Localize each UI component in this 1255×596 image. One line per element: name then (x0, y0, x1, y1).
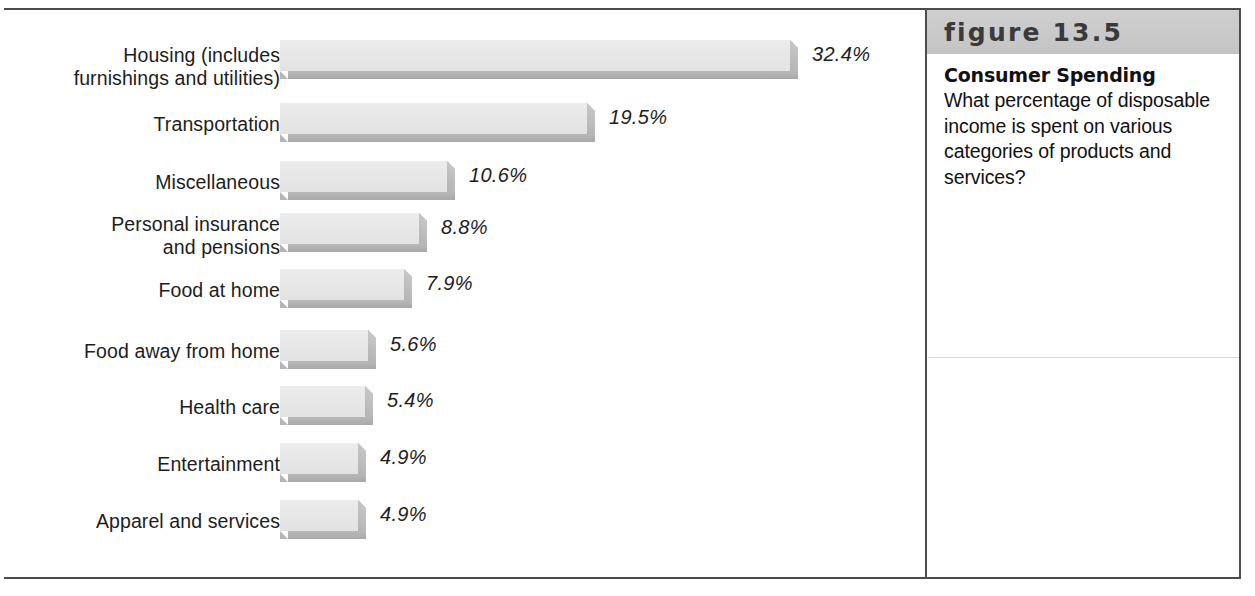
bar (280, 269, 404, 309)
bar-value-label: 7.9% (426, 272, 473, 295)
bar-bottom-face (288, 361, 376, 369)
bar-value-label: 4.9% (380, 503, 427, 526)
bar (280, 40, 790, 80)
bar-row: Entertainment4.9% (4, 443, 925, 489)
bar-row: Personal insurance and pensions8.8% (4, 213, 925, 259)
bar-row: Miscellaneous10.6% (4, 161, 925, 207)
bar-category-label: Food at home (0, 279, 280, 302)
bar-bottom-face (288, 417, 373, 425)
bar-face (280, 443, 358, 474)
bar-category-label: Health care (0, 396, 280, 419)
bar-value-label: 10.6% (469, 164, 527, 187)
figure-caption-panel: figure 13.5 Consumer Spending What perce… (925, 10, 1239, 577)
bar (280, 330, 368, 370)
figure-frame: Housing (includes furnishings and utilit… (4, 8, 1241, 579)
figure-caption-body: What percentage of disposable income is … (944, 88, 1229, 190)
bar-value-label: 19.5% (609, 106, 667, 129)
bar-bottom-face (288, 474, 366, 482)
bar-face (280, 269, 404, 300)
bar-face (280, 103, 587, 134)
bar-face (280, 330, 368, 361)
bar-category-label: Apparel and services (0, 510, 280, 533)
bar-chart: Housing (includes furnishings and utilit… (4, 10, 925, 577)
bar-face (280, 386, 365, 417)
bar (280, 443, 358, 483)
bar-row: Health care5.4% (4, 386, 925, 432)
bar-category-label: Housing (includes furnishings and utilit… (0, 44, 280, 90)
bar (280, 103, 587, 143)
bar-bottom-face (288, 134, 595, 142)
bar (280, 386, 365, 426)
bar-row: Food away from home5.6% (4, 330, 925, 376)
bar-category-label: Food away from home (0, 340, 280, 363)
bar-value-label: 5.4% (387, 389, 434, 412)
bar-category-label: Personal insurance and pensions (0, 213, 280, 259)
bar-bottom-face (288, 192, 455, 200)
bar-row: Housing (includes furnishings and utilit… (4, 40, 925, 86)
figure-caption-title: Consumer Spending (944, 64, 1156, 86)
bar-category-label: Transportation (0, 113, 280, 136)
panel-divider (929, 357, 1239, 358)
bar-value-label: 8.8% (441, 216, 488, 239)
bar-value-label: 4.9% (380, 446, 427, 469)
bar-face (280, 500, 358, 531)
bar-row: Food at home7.9% (4, 269, 925, 315)
bar-bottom-face (288, 244, 427, 252)
bar-value-label: 5.6% (390, 333, 437, 356)
bar (280, 500, 358, 540)
bar-row: Transportation19.5% (4, 103, 925, 149)
bar-category-label: Miscellaneous (0, 171, 280, 194)
bar-face (280, 40, 790, 71)
bar-row: Apparel and services4.9% (4, 500, 925, 546)
bar-bottom-face (288, 531, 366, 539)
bar (280, 213, 419, 253)
bar-face (280, 213, 419, 244)
bar (280, 161, 447, 201)
bar-value-label: 32.4% (812, 43, 870, 66)
bar-bottom-face (288, 300, 412, 308)
bar-bottom-face (288, 71, 798, 79)
bar-category-label: Entertainment (0, 453, 280, 476)
bar-face (280, 161, 447, 192)
figure-number-label: figure 13.5 (944, 18, 1123, 47)
